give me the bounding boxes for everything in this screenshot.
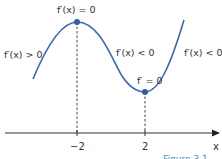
- tick-label-neg2: −2: [70, 141, 85, 152]
- decreasing-label: f′(x) < 0: [116, 47, 155, 58]
- right-label: f′(x) < 0: [184, 47, 222, 58]
- increasing-label: f′(x) > 0: [4, 49, 43, 60]
- max-label: f′(x) = 0: [57, 4, 96, 15]
- x-axis-arrow-icon: [212, 130, 220, 137]
- local-max-point: [74, 19, 80, 25]
- figure-caption: Figure 3.1: [163, 154, 208, 159]
- tick-label-2: 2: [142, 141, 148, 152]
- min-label: f′ = 0: [137, 75, 163, 86]
- local-min-point: [142, 89, 148, 95]
- derivative-sign-diagram: f′(x) = 0 f′(x) > 0 f′(x) < 0 f′(x) < 0 …: [0, 0, 222, 159]
- x-axis-label: x: [213, 141, 219, 152]
